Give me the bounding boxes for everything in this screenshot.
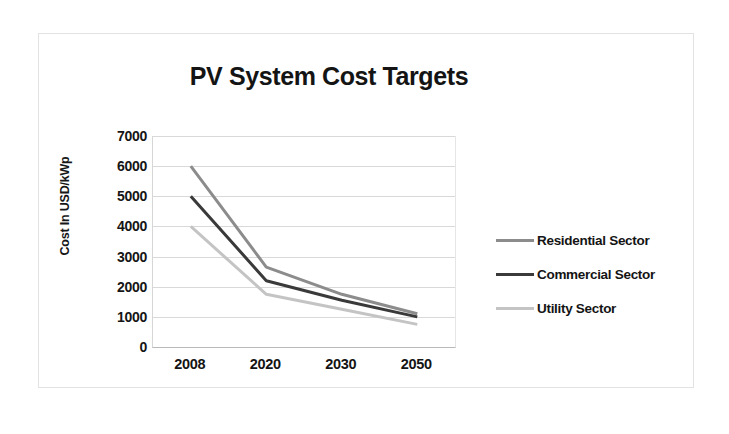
legend-item[interactable]: Utility Sector (496, 291, 696, 325)
legend-label: Utility Sector (537, 301, 616, 316)
y-tick-label: 7000 (87, 128, 147, 144)
legend-label: Residential Sector (537, 233, 649, 248)
y-axis-title: Cost In USD/kWp (58, 136, 72, 276)
y-tick-label: 2000 (87, 279, 147, 295)
x-tick-label: 2050 (376, 356, 456, 372)
x-tick-label: 2008 (150, 356, 230, 372)
legend-label: Commercial Sector (537, 267, 655, 282)
legend-swatch-icon (496, 239, 534, 242)
chart-legend: Residential SectorCommercial SectorUtili… (496, 223, 696, 325)
y-axis-tick-labels: 70006000500040003000200010000 (87, 136, 147, 348)
series-lines (153, 136, 455, 347)
y-tick-label: 1000 (87, 309, 147, 325)
y-tick-label: 3000 (87, 249, 147, 265)
chart-container: PV System Cost Targets Cost In USD/kWp 7… (38, 33, 694, 388)
legend-item[interactable]: Commercial Sector (496, 257, 696, 291)
legend-item[interactable]: Residential Sector (496, 223, 696, 257)
x-tick-label: 2030 (301, 356, 381, 372)
chart-title: PV System Cost Targets (39, 62, 619, 91)
plot-area (152, 136, 456, 348)
y-tick-label: 5000 (87, 188, 147, 204)
legend-swatch-icon (496, 273, 534, 276)
x-axis-tick-labels: 2008202020302050 (152, 356, 456, 382)
y-tick-label: 0 (87, 339, 147, 355)
y-tick-label: 4000 (87, 218, 147, 234)
legend-swatch-icon (496, 307, 534, 310)
y-tick-label: 6000 (87, 158, 147, 174)
x-tick-label: 2020 (225, 356, 305, 372)
